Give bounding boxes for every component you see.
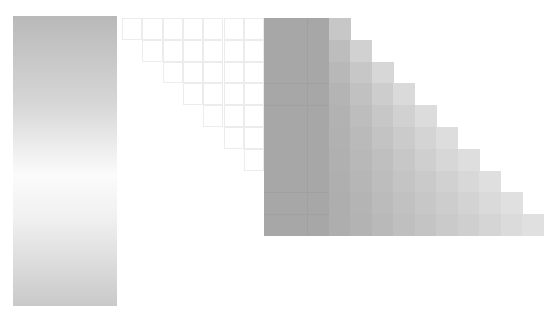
grid-cell — [372, 214, 394, 236]
grid-cell — [224, 18, 244, 40]
grid-cell — [415, 149, 437, 171]
grid-cell — [393, 192, 415, 214]
grid-cell — [203, 40, 223, 62]
grid-cell — [286, 127, 308, 149]
grid-cell — [458, 149, 480, 171]
grid-cell — [372, 62, 394, 84]
grid-cell — [458, 192, 480, 214]
grid-cell — [393, 214, 415, 236]
grid-cell — [224, 62, 244, 84]
grid-cell — [286, 18, 308, 40]
grid-cell — [501, 192, 523, 214]
grid-cell — [307, 62, 329, 84]
grid-cell — [264, 62, 286, 84]
grid-cell — [393, 105, 415, 127]
grid-cell — [415, 127, 437, 149]
grid-cell — [183, 18, 203, 40]
grid-cell — [307, 192, 329, 214]
grid-cell — [264, 192, 286, 214]
grid-cell — [244, 83, 264, 105]
grid-cell — [372, 171, 394, 193]
grid-cell — [393, 83, 415, 105]
grid-cell — [458, 214, 480, 236]
grid-cell — [307, 127, 329, 149]
grid-cell — [436, 214, 458, 236]
grid-cell — [329, 40, 351, 62]
grid-cell — [142, 40, 162, 62]
grid-cell — [329, 214, 351, 236]
grid-cell — [264, 149, 286, 171]
grid-cell — [286, 40, 308, 62]
grid-cell — [203, 18, 223, 40]
grid-cell — [436, 149, 458, 171]
grid-cell — [307, 171, 329, 193]
grid-cell — [329, 18, 351, 40]
grid-cell — [479, 214, 501, 236]
grid-cell — [224, 83, 244, 105]
grid-cell — [286, 214, 308, 236]
grid-cell — [286, 171, 308, 193]
grid-cell — [244, 40, 264, 62]
grid-cell — [350, 83, 372, 105]
grid-cell — [122, 18, 142, 40]
gradient-panel — [13, 16, 117, 306]
grid-cell — [436, 192, 458, 214]
grid-cell — [307, 18, 329, 40]
grid-cell — [244, 18, 264, 40]
grid-cell — [264, 105, 286, 127]
grid-cell — [350, 214, 372, 236]
grid-cell — [286, 62, 308, 84]
grid-cell — [350, 127, 372, 149]
grid-cell — [415, 105, 437, 127]
grid-cell — [286, 192, 308, 214]
grid-cell — [350, 171, 372, 193]
grid-cell — [244, 105, 264, 127]
grid-cell — [286, 105, 308, 127]
grid-cell — [393, 149, 415, 171]
grid-cell — [183, 62, 203, 84]
grid-cell — [264, 18, 286, 40]
grid-cell — [350, 105, 372, 127]
grid-cell — [350, 62, 372, 84]
grid-cell — [203, 62, 223, 84]
grid-cell — [436, 171, 458, 193]
grid-cell — [224, 40, 244, 62]
grid-cell — [307, 40, 329, 62]
grid-cell — [415, 192, 437, 214]
grid-cell — [350, 149, 372, 171]
grid-cell — [393, 171, 415, 193]
grid-cell — [264, 83, 286, 105]
grid-cell — [224, 105, 244, 127]
grid-cell — [264, 127, 286, 149]
grid-cell — [415, 171, 437, 193]
grid-cell — [501, 214, 523, 236]
grid-cell — [350, 192, 372, 214]
grid-cell — [329, 83, 351, 105]
grid-cell — [264, 214, 286, 236]
grid-cell — [307, 83, 329, 105]
grid-cell — [436, 127, 458, 149]
grid-cell — [183, 83, 203, 105]
grid-cell — [372, 127, 394, 149]
grid-cell — [183, 40, 203, 62]
grid-cell — [329, 127, 351, 149]
grid-cell — [522, 214, 544, 236]
grid-cell — [329, 171, 351, 193]
grid-cell — [458, 171, 480, 193]
grid-cell — [286, 83, 308, 105]
grid-cell — [372, 149, 394, 171]
grid-cell — [372, 83, 394, 105]
grid-cell — [244, 149, 264, 171]
grid-cell — [329, 149, 351, 171]
grid-cell — [307, 214, 329, 236]
grid-cell — [307, 105, 329, 127]
grid-cell — [372, 192, 394, 214]
grid-cell — [307, 149, 329, 171]
grid-cell — [203, 105, 223, 127]
grid-cell — [163, 18, 183, 40]
grid-cell — [142, 18, 162, 40]
grid-cell — [479, 192, 501, 214]
grid-cell — [264, 40, 286, 62]
grid-cell — [393, 127, 415, 149]
grid-cell — [163, 62, 183, 84]
